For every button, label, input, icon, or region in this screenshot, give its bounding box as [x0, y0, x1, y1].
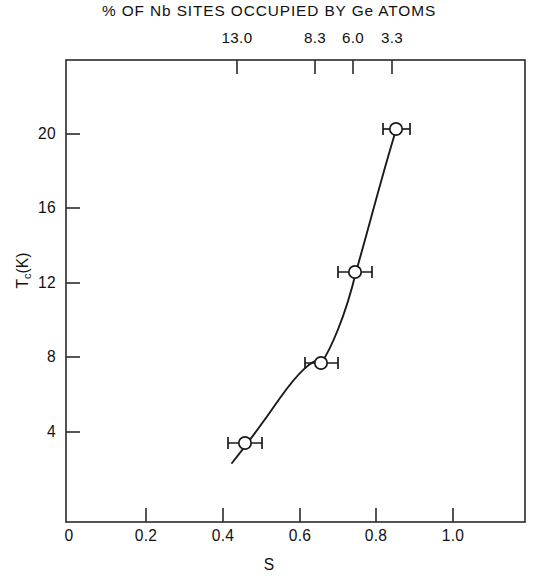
data-series — [228, 123, 410, 449]
data-point-1 — [305, 357, 338, 369]
bottom-axis-ticks — [146, 508, 453, 522]
data-point-3 — [383, 123, 410, 135]
chart-figure: % OF Nb SITES OCCUPIED BY Ge ATOMS 13.0 … — [0, 0, 538, 583]
top-axis-ticks — [237, 60, 392, 74]
y-axis-ticks — [66, 134, 80, 432]
plot-area — [0, 0, 538, 583]
data-point-2 — [338, 266, 372, 278]
plot-frame — [66, 60, 525, 522]
marker-2 — [349, 266, 361, 278]
marker-3 — [390, 123, 402, 135]
fit-curve — [232, 130, 396, 463]
marker-1 — [315, 357, 327, 369]
data-point-0 — [228, 437, 262, 449]
marker-0 — [239, 437, 251, 449]
